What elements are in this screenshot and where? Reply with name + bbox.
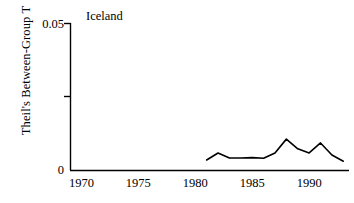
- x-axis-tick-label-1990: 1990: [286, 176, 332, 191]
- x-axis-tick-label-1975: 1975: [115, 176, 161, 191]
- x-axis-tick-label-1970: 1970: [58, 176, 104, 191]
- chart-svg: [0, 0, 354, 203]
- plot-area: [0, 0, 354, 203]
- axes-group: [64, 23, 349, 171]
- x-axis-tick-label-1980: 1980: [172, 176, 218, 191]
- data-series-line: [207, 139, 344, 161]
- chart-figure: Theil's Between-Group T 0.05 0 Iceland 1…: [0, 0, 354, 203]
- x-axis-tick-label-1985: 1985: [229, 176, 275, 191]
